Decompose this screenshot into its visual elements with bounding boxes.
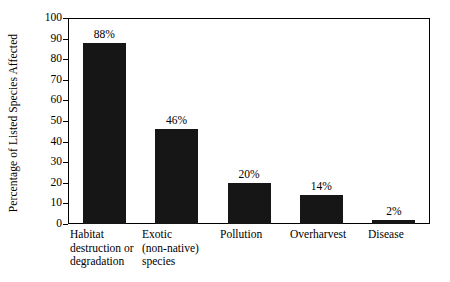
x-axis-category-label: Exotic(non-native)species [142, 228, 199, 269]
x-axis-category-label-line: Overharvest [290, 228, 346, 242]
y-axis-tick-label: 80 [20, 53, 62, 65]
x-axis-category-label-line: Exotic [142, 228, 199, 242]
x-axis-category-label-line: species [142, 255, 199, 269]
bar [372, 220, 415, 224]
x-axis-category-label-line: degradation [70, 255, 134, 269]
x-axis-category-label: Habitatdestruction ordegradation [70, 228, 134, 269]
y-axis-tick-labels: 0102030405060708090100 [18, 0, 62, 282]
y-axis-tick-mark [63, 224, 68, 225]
x-axis-category-label: Pollution [220, 228, 262, 242]
bar-value-label: 88% [74, 28, 134, 40]
y-axis-tick-label: 50 [20, 115, 62, 127]
bar [300, 195, 343, 224]
x-axis-category-label-line: Habitat [70, 228, 134, 242]
x-axis-category-label-line: (non-native) [142, 242, 199, 256]
y-axis-tick-label: 40 [20, 136, 62, 148]
y-axis-tick-label: 70 [20, 74, 62, 86]
bar [228, 183, 271, 224]
x-axis-category-label-line: destruction or [70, 242, 134, 256]
y-axis-tick-label: 100 [20, 12, 62, 24]
bar-value-label: 20% [219, 168, 279, 180]
y-axis-tick-label: 90 [20, 33, 62, 45]
x-axis-category-label-line: Disease [368, 228, 404, 242]
x-axis-category-labels: Habitatdestruction ordegradationExotic(n… [68, 228, 430, 282]
bar-chart-figure: Percentage of Listed Species Affected 01… [0, 0, 450, 282]
x-axis-category-label-line: Pollution [220, 228, 262, 242]
plot-area: 88%46%20%14%2% [68, 18, 430, 224]
bar-value-label: 2% [364, 205, 424, 217]
bar-value-label: 46% [147, 114, 207, 126]
bar [155, 129, 198, 224]
bar [83, 43, 126, 224]
x-axis-category-label: Overharvest [290, 228, 346, 242]
y-axis-tick-label: 30 [20, 156, 62, 168]
y-axis-tick-label: 60 [20, 94, 62, 106]
y-axis-tick-label: 0 [20, 218, 62, 230]
x-axis-category-label: Disease [368, 228, 404, 242]
bar-value-label: 14% [291, 180, 351, 192]
y-axis-tick-label: 10 [20, 197, 62, 209]
y-axis-tick-label: 20 [20, 177, 62, 189]
